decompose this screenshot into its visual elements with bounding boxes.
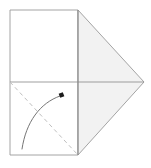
paper-right-triangle-flap bbox=[78, 10, 144, 155]
fold-diagram-canvas: Paper fold diagram bbox=[0, 0, 151, 168]
paper-left-panel bbox=[10, 10, 78, 155]
origami-fold-diagram: Paper fold diagram bbox=[0, 0, 151, 168]
